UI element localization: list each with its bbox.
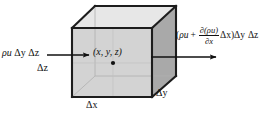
flux-out-delta-z: Δz: [248, 31, 258, 41]
flux-out-delta-x: Δx: [220, 31, 231, 41]
control-volume-figure: ρu Δy Δz Δz (x, y, z) Δx Δy ( ρu + ∂(ρu)…: [0, 0, 273, 130]
flux-in-rho-u: ρu: [2, 48, 12, 59]
flux-in-delta-y: Δy: [14, 48, 25, 59]
delta-z-label: Δz: [37, 63, 48, 74]
delta-x-label: Δx: [86, 100, 97, 111]
flux-out-plus-sign: +: [188, 31, 197, 41]
fraction-denominator: ∂x: [204, 36, 214, 45]
flux-out-rho-u: ρu: [179, 31, 188, 41]
delta-y-label: Δy: [156, 88, 167, 99]
mass-flux-out-label: ( ρu + ∂(ρu) ∂x Δx ) Δy Δz: [176, 26, 258, 45]
partial-derivative-fraction: ∂(ρu) ∂x: [199, 26, 219, 45]
mass-flux-in-label: ρu Δy Δz: [2, 48, 39, 59]
fraction-numerator: ∂(ρu): [199, 26, 219, 35]
flux-in-delta-z: Δz: [28, 48, 39, 59]
flux-out-delta-y: Δy: [234, 31, 245, 41]
figure-caption: [0, 123, 273, 130]
center-point-label: (x, y, z): [93, 47, 122, 58]
center-point-dot: [111, 61, 115, 65]
